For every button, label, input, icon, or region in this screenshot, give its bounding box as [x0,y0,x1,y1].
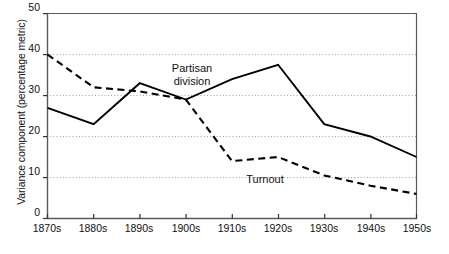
x-tick-label-1950s: 1950s [392,222,442,234]
series-line-partisan-division [48,65,417,157]
x-tick-label-1890s: 1890s [114,222,164,234]
x-tick-label-1900s: 1900s [161,222,211,234]
chart-figure: Variance component (percentage metric) 0… [0,0,449,254]
series-annotation-turnout: Turnout [236,173,294,186]
x-tick-label-1920s: 1920s [253,222,303,234]
partisan-label-line1: Partisan [172,62,212,74]
x-tick-label-1910s: 1910s [207,222,257,234]
plot-area [0,0,449,254]
x-tick-label-1940s: 1940s [346,222,396,234]
series-line-turnout [48,55,417,194]
x-tick-label-1930s: 1930s [299,222,349,234]
x-tick-label-1870s: 1870s [22,222,72,234]
x-tick-label-1880s: 1880s [68,222,118,234]
series-annotation-partisan-division: Partisan division [153,62,231,87]
partisan-label-line2: division [174,75,211,87]
